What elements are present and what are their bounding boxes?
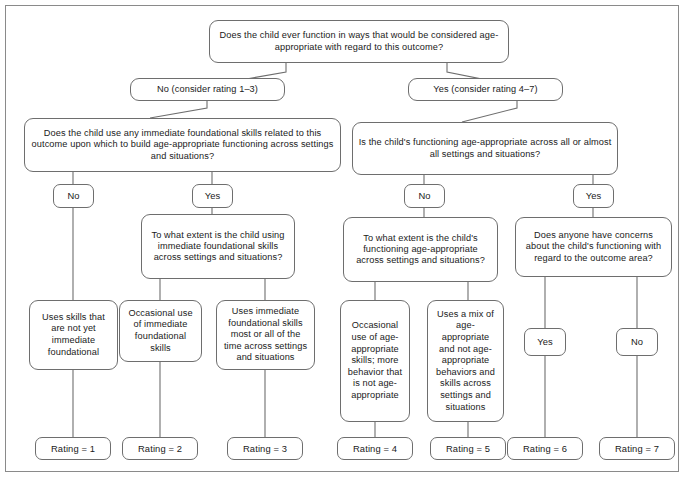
descriptor-rating-4: Occasional use of age-appropriate skills…: [340, 300, 410, 422]
concern-answer-no: No: [616, 328, 658, 356]
branch-no-rating-1-3: No (consider rating 1–3): [130, 78, 285, 101]
question-extent-foundational-skills: To what extent is the child using immedi…: [141, 214, 295, 279]
branch-yes-rating-4-7: Yes (consider rating 4–7): [408, 78, 563, 101]
rating-6: Rating = 6: [507, 437, 583, 460]
right-question-age-appropriate: Is the child's functioning age-appropria…: [352, 122, 618, 175]
left-answer-yes: Yes: [192, 184, 233, 208]
descriptor-rating-5: Uses a mix of age-appropriate and not ag…: [427, 300, 504, 422]
descriptor-rating-1: Uses skills that are not yet immediate f…: [29, 300, 118, 370]
left-question-foundational-skills: Does the child use any immediate foundat…: [24, 118, 341, 172]
right-answer-yes: Yes: [573, 184, 614, 208]
rating-4: Rating = 4: [337, 437, 413, 460]
decision-tree-diagram: Does the child ever function in ways tha…: [0, 0, 686, 484]
rating-3: Rating = 3: [227, 437, 303, 460]
left-answer-no: No: [53, 184, 94, 208]
descriptor-rating-2: Occasional use of immediate foundational…: [119, 300, 202, 362]
descriptor-rating-3: Uses immediate foundational skills most …: [216, 300, 315, 370]
rating-7: Rating = 7: [599, 437, 675, 460]
question-extent-age-appropriate: To what extent is the child's functionin…: [343, 217, 498, 282]
right-answer-no: No: [404, 184, 445, 208]
rating-1: Rating = 1: [35, 437, 111, 460]
question-concerns: Does anyone have concerns about the chil…: [515, 217, 672, 277]
rating-5: Rating = 5: [430, 437, 506, 460]
concern-answer-yes: Yes: [524, 328, 566, 356]
root-question: Does the child ever function in ways tha…: [209, 20, 509, 63]
rating-2: Rating = 2: [122, 437, 198, 460]
